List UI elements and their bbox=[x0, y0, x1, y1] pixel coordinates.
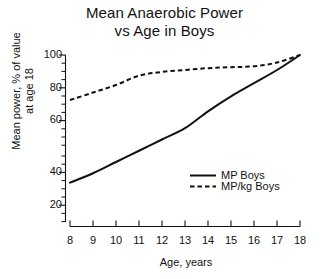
y-axis-minor-ticks bbox=[62, 63, 66, 221]
legend-label-mp-per-kg-boys: MP/kg Boys bbox=[221, 180, 280, 192]
x-axis-ticks bbox=[70, 221, 300, 227]
series-line-mp-boys bbox=[70, 55, 300, 183]
y-axis-major-ticks bbox=[59, 55, 66, 205]
plot-area bbox=[0, 0, 329, 279]
chart-figure: Mean Anaerobic Power vs Age in Boys Mean… bbox=[0, 0, 329, 279]
